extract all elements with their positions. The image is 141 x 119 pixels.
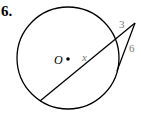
center-point [66, 57, 70, 61]
external-secant-label: 3 [119, 18, 125, 30]
center-label: O [54, 53, 63, 67]
tangent-label: 6 [129, 42, 135, 54]
chord-label: x [81, 51, 87, 63]
geometry-diagram: 6. O 3 6 x [0, 0, 141, 119]
problem-number: 6. [1, 3, 13, 19]
